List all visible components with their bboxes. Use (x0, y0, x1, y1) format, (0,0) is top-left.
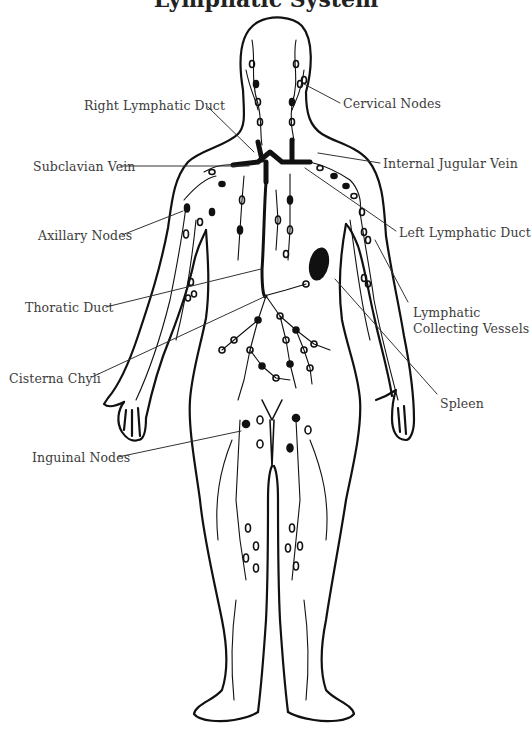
body-outline (104, 17, 414, 721)
lymphatic-ducts (233, 140, 310, 182)
label-lymphatic-collecting-vessels-line1: Lymphatic (413, 305, 480, 320)
spleen-shape (307, 246, 331, 281)
label-inguinal-nodes: Inguinal Nodes (32, 450, 130, 465)
label-axillary-nodes: Axillary Nodes (38, 228, 132, 243)
label-right-lymphatic-duct: Right Lymphatic Duct (84, 98, 225, 113)
label-subclavian-vein: Subclavian Vein (33, 159, 135, 174)
lymphatic-diagram: Lymphatic System (0, 0, 532, 732)
label-left-lymphatic-duct: Left Lymphatic Duct (399, 225, 531, 240)
label-internal-jugular-vein: Internal Jugular Vein (383, 156, 518, 171)
thoracic-duct (262, 182, 266, 297)
label-lymphatic-collecting-vessels-line2: Collecting Vessels (413, 321, 529, 336)
label-thoratic-duct: Thoratic Duct (25, 300, 114, 315)
label-cisterna-chyli: Cisterna Chyli (9, 371, 101, 386)
leader-lines (92, 84, 437, 457)
body-figure (0, 0, 532, 732)
label-cervical-nodes: Cervical Nodes (343, 96, 441, 111)
label-spleen: Spleen (440, 396, 484, 411)
